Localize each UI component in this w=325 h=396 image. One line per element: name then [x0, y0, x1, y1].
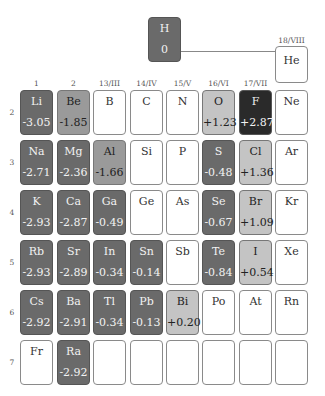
element-value: +0.54	[240, 266, 271, 279]
element-cell-n: N	[166, 90, 199, 135]
element-cell-sb: Sb	[166, 240, 199, 285]
element-symbol: K	[21, 195, 52, 208]
element-symbol: At	[240, 295, 271, 308]
element-symbol: Tl	[94, 295, 125, 308]
element-symbol: Ge	[131, 195, 162, 208]
element-cell-al: Al-1.66	[93, 140, 126, 185]
element-value: -0.14	[131, 266, 162, 279]
element-symbol: Na	[21, 145, 52, 158]
empty-cell	[130, 340, 163, 385]
element-cell-ga: Ga-0.49	[93, 190, 126, 235]
element-cell-se: Se-0.67	[202, 190, 235, 235]
element-value: -0.67	[203, 216, 234, 229]
period-label: 6	[6, 308, 18, 317]
element-value: -0.48	[203, 166, 234, 179]
element-value: -2.89	[58, 266, 89, 279]
element-value: +2.87	[240, 116, 271, 129]
group-label: 14/IV	[130, 79, 163, 88]
element-cell-c: C	[130, 90, 163, 135]
element-cell-f: F+2.87	[239, 90, 272, 135]
element-value: -1.85	[58, 116, 89, 129]
element-symbol: Cl	[240, 145, 271, 158]
element-symbol: Ne	[276, 95, 307, 108]
period-label: 5	[6, 258, 18, 267]
element-value: -0.49	[94, 216, 125, 229]
group-label: 1	[20, 79, 53, 88]
group-label: 2	[57, 79, 90, 88]
element-symbol: Ra	[58, 345, 89, 358]
element-cell-xe: Xe	[275, 240, 308, 285]
hydrogen-helium-connector	[181, 51, 275, 52]
element-cell-cs: Cs-2.92	[20, 290, 53, 335]
group-label: 15/V	[166, 79, 199, 88]
element-cell-as: As	[166, 190, 199, 235]
element-cell-ca: Ca-2.87	[57, 190, 90, 235]
element-cell-ne: Ne	[275, 90, 308, 135]
element-value: -0.13	[131, 316, 162, 329]
element-value: -2.93	[21, 216, 52, 229]
element-cell-li: Li-3.05	[20, 90, 53, 135]
element-symbol: P	[167, 145, 198, 158]
element-cell-sr: Sr-2.89	[57, 240, 90, 285]
element-symbol: Pb	[131, 295, 162, 308]
period-label: 4	[6, 208, 18, 217]
element-value: -0.84	[203, 266, 234, 279]
element-symbol: Be	[58, 95, 89, 108]
element-cell-b: B	[93, 90, 126, 135]
period-label: 7	[6, 358, 18, 367]
element-value: +1.09	[240, 216, 271, 229]
element-value: -2.92	[58, 366, 89, 379]
element-value: +1.23	[203, 116, 234, 129]
element-cell-s: S-0.48	[202, 140, 235, 185]
element-symbol: N	[167, 95, 198, 108]
element-cell-mg: Mg-2.36	[57, 140, 90, 185]
empty-cell	[239, 340, 272, 385]
element-symbol: Ga	[94, 195, 125, 208]
element-symbol: H	[149, 22, 180, 35]
group-label: 16/VI	[202, 79, 235, 88]
period-label: 3	[6, 158, 18, 167]
group-label-18: 18/VIII	[275, 36, 308, 45]
element-symbol: Kr	[276, 195, 307, 208]
element-symbol: C	[131, 95, 162, 108]
element-cell-in: In-0.34	[93, 240, 126, 285]
element-cell-te: Te-0.84	[202, 240, 235, 285]
element-value: -2.87	[58, 216, 89, 229]
element-cell-k: K-2.93	[20, 190, 53, 235]
element-cell-tl: Tl-0.34	[93, 290, 126, 335]
empty-cell	[202, 340, 235, 385]
element-cell-at: At	[239, 290, 272, 335]
element-cell-helium: He	[275, 46, 308, 83]
element-value: 0	[149, 43, 180, 56]
element-cell-ge: Ge	[130, 190, 163, 235]
element-symbol: Rn	[276, 295, 307, 308]
element-value: -2.36	[58, 166, 89, 179]
element-value: -2.91	[58, 316, 89, 329]
element-value: +1.36	[240, 166, 271, 179]
element-value: -0.34	[94, 316, 125, 329]
element-value: -1.66	[94, 166, 125, 179]
element-cell-ar: Ar	[275, 140, 308, 185]
element-value: -0.34	[94, 266, 125, 279]
element-symbol: Po	[203, 295, 234, 308]
empty-cell	[166, 340, 199, 385]
element-cell-fr: Fr	[20, 340, 53, 385]
element-cell-be: Be-1.85	[57, 90, 90, 135]
element-symbol: Cs	[21, 295, 52, 308]
group-label: 13/III	[93, 79, 126, 88]
element-symbol: As	[167, 195, 198, 208]
element-value: -3.05	[21, 116, 52, 129]
element-value: -2.71	[21, 166, 52, 179]
element-cell-ra: Ra-2.92	[57, 340, 90, 385]
element-symbol: Se	[203, 195, 234, 208]
element-symbol: S	[203, 145, 234, 158]
period-label: 2	[6, 108, 18, 117]
element-symbol: Fr	[21, 345, 52, 358]
element-symbol: Al	[94, 145, 125, 158]
element-cell-pb: Pb-0.13	[130, 290, 163, 335]
element-cell-br: Br+1.09	[239, 190, 272, 235]
element-symbol: Xe	[276, 245, 307, 258]
element-symbol: Ca	[58, 195, 89, 208]
element-cell-cl: Cl+1.36	[239, 140, 272, 185]
element-cell-sn: Sn-0.14	[130, 240, 163, 285]
